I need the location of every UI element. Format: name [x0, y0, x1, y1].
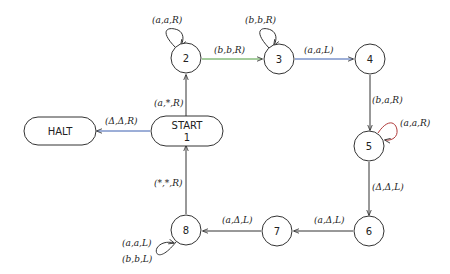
node-s2: 2 — [171, 43, 201, 73]
svg-text:6: 6 — [366, 226, 372, 237]
svg-text:3: 3 — [276, 54, 282, 65]
edge-label: (a,a,R) — [152, 15, 183, 25]
node-start: START 1 — [151, 116, 223, 146]
edge-s6-s7: (a,Δ,L) — [294, 215, 353, 231]
svg-text:5: 5 — [366, 141, 372, 152]
turing-machine-diagram: (Δ,Δ,R) (a,*,R) (a,a,R) (b,b,R) (b,b,R) … — [0, 0, 450, 274]
edge-label: (b,b,R) — [245, 15, 277, 25]
edge-label: (*,*,R) — [154, 178, 183, 188]
node-halt: HALT — [24, 117, 96, 145]
edge-label: (Δ,Δ,R) — [105, 116, 138, 126]
edge-s8-loop: (a,a,L) (b,b,L) — [122, 238, 176, 264]
edge-s2-loop: (a,a,R) — [152, 15, 183, 48]
node-s5: 5 — [354, 131, 384, 161]
svg-text:START: START — [172, 120, 204, 131]
node-s3: 3 — [264, 44, 294, 74]
svg-text:2: 2 — [183, 53, 189, 64]
edge-label: (a,a,L) — [122, 238, 152, 248]
svg-text:HALT: HALT — [48, 126, 74, 137]
edge-s3-loop: (b,b,R) — [245, 15, 277, 48]
node-s4: 4 — [355, 44, 385, 74]
edge-s8-start: (*,*,R) — [154, 146, 186, 214]
edge-label: (a,Δ,L) — [314, 215, 345, 225]
svg-text:8: 8 — [183, 225, 189, 236]
node-s8: 8 — [171, 215, 201, 245]
edge-label: (b,b,R) — [214, 45, 246, 55]
node-s6: 6 — [354, 216, 384, 246]
edge-label: (Δ,Δ,L) — [372, 182, 404, 192]
svg-text:1: 1 — [184, 132, 190, 143]
edge-start-s2: (a,*,R) — [154, 75, 186, 116]
edge-label: (a,Δ,L) — [222, 215, 253, 225]
edge-s2-s3: (b,b,R) — [202, 45, 262, 59]
edge-start-halt: (Δ,Δ,R) — [97, 116, 150, 131]
edge-s5-loop: (a,a,R) — [378, 118, 431, 140]
edge-s7-s8: (a,Δ,L) — [203, 215, 261, 231]
edge-label: (b,a,R) — [372, 95, 403, 105]
svg-text:4: 4 — [367, 54, 373, 65]
edge-s3-s4: (a,a,L) — [295, 45, 353, 59]
edge-label: (a,a,L) — [304, 45, 334, 55]
svg-text:7: 7 — [274, 226, 280, 237]
edge-label: (a,*,R) — [154, 98, 184, 108]
edge-label: (a,a,R) — [400, 118, 431, 128]
edge-s5-s6: (Δ,Δ,L) — [369, 162, 404, 215]
node-s7: 7 — [262, 216, 292, 246]
edge-label: (b,b,L) — [122, 254, 153, 264]
edge-s4-s5: (b,a,R) — [370, 75, 403, 130]
